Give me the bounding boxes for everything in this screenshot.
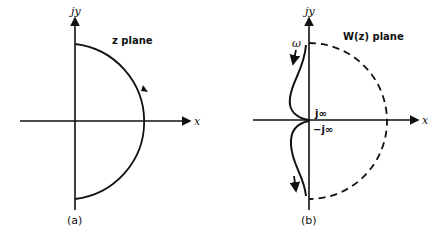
panel-b-plane-label: W(z) plane	[343, 31, 404, 42]
diagram-canvas: jy x z plane (a) ω j∞ −j∞ jy x W(z) plan…	[0, 0, 446, 234]
panel-a-plane-label: z plane	[112, 35, 153, 46]
panel-a-x-axis-label: x	[194, 115, 201, 128]
panel-b-dashed-semicircle	[309, 43, 387, 199]
panel-b-frequency-locus-upper	[290, 45, 309, 120]
panel-a-y-axis-label: jy	[68, 5, 81, 18]
panel-b-pos-j-inf-label: j∞	[314, 108, 327, 119]
panel-b-y-axis-label: jy	[302, 5, 315, 18]
panel-b-upper-direction-arrow-icon	[293, 50, 296, 64]
panel-a: jy x z plane (a)	[20, 5, 201, 227]
panel-b-caption: (b)	[301, 214, 317, 227]
panel-b: ω j∞ −j∞ jy x W(z) plane (b)	[253, 5, 429, 227]
panel-b-x-axis-label: x	[422, 114, 429, 127]
panel-b-neg-j-inf-label: −j∞	[313, 124, 333, 135]
panel-b-omega-label: ω	[292, 37, 301, 50]
panel-a-direction-arrow-icon	[141, 85, 148, 92]
panel-b-lower-direction-arrow-icon	[294, 176, 296, 191]
panel-b-frequency-locus-lower	[291, 121, 309, 196]
panel-a-caption: (a)	[67, 214, 82, 227]
